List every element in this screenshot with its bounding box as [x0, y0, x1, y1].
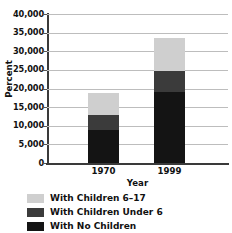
- legend-item[interactable]: With Children 6–17: [27, 192, 146, 205]
- gridline: [47, 144, 228, 145]
- legend-label: With Children 6–17: [50, 194, 146, 203]
- stacked-bar-chart: Percent 40,00035,00030,00025,00020,00015…: [0, 0, 232, 190]
- bar-segment[interactable]: [88, 115, 119, 130]
- legend-item[interactable]: With Children Under 6: [27, 206, 163, 219]
- y-axis-title: Percent: [4, 49, 14, 109]
- gridline: [47, 107, 228, 108]
- y-tick-label: 20,000: [0, 83, 44, 93]
- gridline: [47, 126, 228, 127]
- bar-1970[interactable]: [88, 93, 119, 163]
- y-tick-label: 40,000: [0, 9, 44, 19]
- x-axis-title: Year: [47, 178, 228, 188]
- legend-item[interactable]: With No Children: [27, 220, 136, 233]
- legend-label: With No Children: [50, 222, 136, 231]
- x-tick-label: 1999: [140, 166, 200, 176]
- bar-segment[interactable]: [154, 71, 185, 92]
- gridline: [47, 14, 228, 15]
- y-tick-label: 25,000: [0, 64, 44, 74]
- y-tick-label: 10,000: [0, 120, 44, 130]
- bar-segment[interactable]: [154, 92, 185, 163]
- legend-label: With Children Under 6: [50, 208, 163, 217]
- bar-segment[interactable]: [154, 38, 185, 71]
- y-tick-label: 5,000: [0, 139, 44, 149]
- x-axis-line: [46, 163, 229, 165]
- y-tick-label: 35,000: [0, 27, 44, 37]
- bar-segment[interactable]: [88, 93, 119, 115]
- legend-swatch-icon: [27, 222, 44, 231]
- bar-segment[interactable]: [88, 130, 119, 163]
- gridline: [47, 89, 228, 90]
- bar-1999[interactable]: [154, 38, 185, 163]
- legend-swatch-icon: [27, 208, 44, 217]
- gridline: [47, 51, 228, 52]
- legend-swatch-icon: [27, 194, 44, 203]
- x-tick-label: 1970: [74, 166, 134, 176]
- y-tick-label: 0: [0, 158, 44, 168]
- gridline: [47, 70, 228, 71]
- gridline: [47, 33, 228, 34]
- chart-legend: With Children 6–17With Children Under 6W…: [0, 190, 232, 233]
- y-tick-label: 30,000: [0, 46, 44, 56]
- plot-area: [47, 14, 228, 163]
- y-tick-label: 15,000: [0, 102, 44, 112]
